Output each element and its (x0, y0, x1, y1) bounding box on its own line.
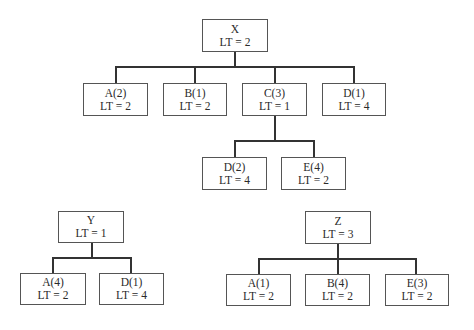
connector (258, 258, 260, 274)
node-lead-time: LT = 1 (259, 100, 290, 113)
node-name: D(1) (343, 87, 365, 100)
connector (194, 66, 196, 83)
connector (234, 140, 236, 157)
connector (274, 66, 276, 83)
connector (313, 140, 315, 157)
node-y-a: A(4) LT = 2 (20, 273, 86, 305)
node-x: X LT = 2 (202, 19, 268, 52)
node-name: E(3) (407, 277, 427, 290)
node-name: C(3) (264, 87, 285, 100)
node-name: B(4) (327, 277, 348, 290)
node-x-c: C(3) LT = 1 (242, 83, 307, 116)
connector (115, 66, 355, 68)
connector (52, 257, 54, 273)
node-name: Z (334, 215, 341, 228)
node-lead-time: LT = 2 (243, 290, 274, 303)
connector (353, 66, 355, 83)
node-lead-time: LT = 2 (100, 100, 131, 113)
node-name: A(4) (42, 276, 64, 289)
node-name: D(2) (224, 161, 246, 174)
node-name: X (231, 23, 239, 36)
node-y: Y LT = 1 (58, 211, 124, 243)
node-lead-time: LT = 2 (322, 290, 353, 303)
connector (415, 258, 417, 274)
connector (274, 116, 276, 141)
connector (234, 52, 236, 67)
node-x-b: B(1) LT = 2 (163, 83, 227, 116)
connector (258, 258, 417, 260)
node-y-d: D(1) LT = 4 (99, 273, 164, 305)
node-lead-time: LT = 2 (180, 100, 211, 113)
node-lead-time: LT = 2 (220, 36, 251, 49)
node-name: E(4) (303, 161, 323, 174)
node-lead-time: LT = 4 (339, 100, 370, 113)
node-x-c-d: D(2) LT = 4 (202, 157, 267, 190)
node-x-d: D(1) LT = 4 (322, 83, 386, 116)
connector (234, 140, 315, 142)
node-z-b: B(4) LT = 2 (305, 274, 370, 306)
node-z: Z LT = 3 (305, 211, 371, 244)
node-z-a: A(1) LT = 2 (226, 274, 291, 306)
node-x-a: A(2) LT = 2 (83, 83, 148, 116)
node-name: A(1) (248, 277, 270, 290)
node-name: B(1) (184, 87, 205, 100)
connector (91, 243, 93, 258)
node-lead-time: LT = 1 (76, 227, 107, 240)
connector (130, 257, 132, 273)
connector (115, 66, 117, 83)
node-name: Y (87, 214, 95, 227)
node-lead-time: LT = 4 (116, 289, 147, 302)
node-x-c-e: E(4) LT = 2 (281, 157, 346, 190)
node-lead-time: LT = 3 (323, 228, 354, 241)
node-name: A(2) (105, 87, 127, 100)
node-lead-time: LT = 2 (38, 289, 69, 302)
node-z-e: E(3) LT = 2 (385, 274, 449, 306)
node-lead-time: LT = 4 (219, 174, 250, 187)
node-lead-time: LT = 2 (402, 290, 433, 303)
node-name: D(1) (121, 276, 143, 289)
connector (52, 257, 132, 259)
node-lead-time: LT = 2 (298, 174, 329, 187)
